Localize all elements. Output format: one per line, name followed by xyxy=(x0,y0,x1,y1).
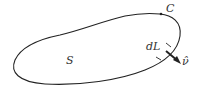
label-s: S xyxy=(66,54,74,67)
label-dl: dL xyxy=(146,40,160,53)
diagram-canvas: C S dL ν̂ xyxy=(0,0,198,89)
dl-tick-upper xyxy=(166,43,171,47)
dl-tick-lower xyxy=(156,57,161,60)
label-normal: ν̂ xyxy=(182,55,189,68)
label-c: C xyxy=(166,2,175,15)
orientation-marker xyxy=(160,13,163,16)
